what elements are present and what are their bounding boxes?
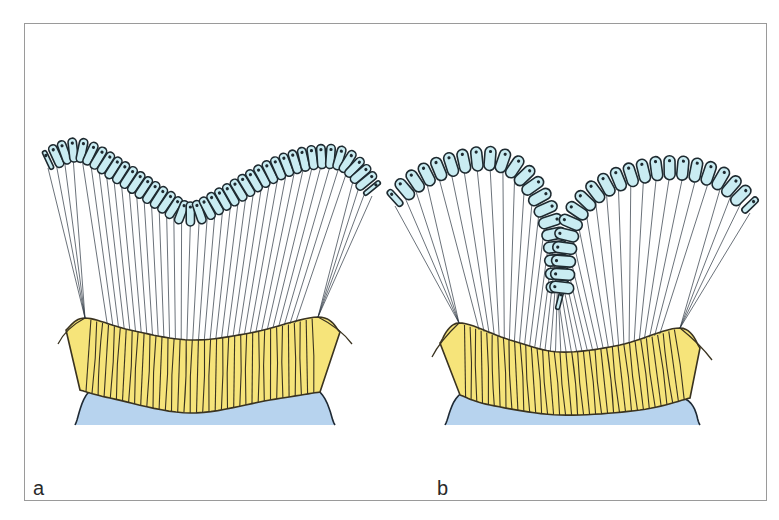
cell [649, 156, 663, 181]
cell [676, 156, 689, 181]
panel-a-diagram [42, 138, 381, 425]
panel-label-b: b [437, 478, 448, 498]
cell [549, 281, 574, 295]
cell [550, 268, 575, 281]
fiber-lines [48, 158, 372, 340]
epithelial-cells [42, 138, 381, 226]
epithelial-cells [386, 146, 759, 310]
panel-b-diagram [386, 146, 759, 425]
cell [484, 146, 497, 171]
cell [470, 146, 483, 171]
figure-canvas [0, 0, 779, 520]
nucleus-dot [189, 205, 192, 208]
cell [552, 241, 577, 255]
panel-label-a: a [33, 478, 44, 498]
cell [664, 156, 675, 180]
cell [551, 255, 576, 268]
